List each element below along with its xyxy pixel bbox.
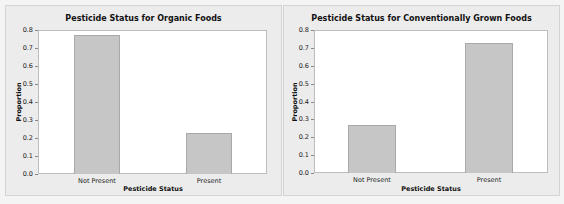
y-tick-mark	[311, 30, 314, 31]
y-tick-mark	[35, 120, 38, 121]
bar-present	[465, 43, 513, 173]
y-tick-label: 0.1	[289, 151, 309, 159]
chart-panel-conventional: Pesticide Status for Conventionally Grow…	[283, 5, 560, 196]
y-tick-label: 0.1	[13, 152, 33, 160]
y-tick-label: 0.6	[13, 62, 33, 70]
y-tick-mark	[35, 174, 38, 175]
y-tick-label: 0.2	[289, 133, 309, 141]
x-tick-label: Not Present	[78, 177, 116, 185]
bar-not-present	[348, 125, 396, 173]
y-tick-mark	[311, 66, 314, 67]
y-tick-mark	[311, 84, 314, 85]
y-tick-label: 0.4	[289, 98, 309, 106]
x-tick-label: Present	[477, 176, 501, 184]
y-tick-mark	[311, 119, 314, 120]
y-tick-label: 0.8	[289, 26, 309, 34]
y-tick-mark	[311, 102, 314, 103]
bar-present	[186, 133, 232, 174]
x-tick-label: Present	[197, 177, 221, 185]
y-tick-mark	[35, 138, 38, 139]
y-tick-mark	[311, 137, 314, 138]
y-tick-mark	[35, 84, 38, 85]
bar-not-present	[74, 35, 120, 174]
y-tick-label: 0.3	[289, 115, 309, 123]
y-tick-mark	[35, 102, 38, 103]
y-tick-label: 0.7	[289, 44, 309, 52]
y-tick-mark	[311, 155, 314, 156]
y-tick-label: 0.8	[13, 26, 33, 34]
y-tick-label: 0.6	[289, 62, 309, 70]
y-tick-label: 0.4	[13, 98, 33, 106]
x-axis-label: Pesticide Status	[123, 185, 183, 193]
chart-panel-organic: Pesticide Status for Organic Foods Propo…	[5, 5, 282, 196]
y-tick-label: 0.0	[13, 170, 33, 178]
y-tick-label: 0.3	[13, 116, 33, 124]
y-tick-mark	[35, 66, 38, 67]
y-tick-mark	[311, 48, 314, 49]
chart-title: Pesticide Status for Conventionally Grow…	[284, 14, 559, 23]
y-tick-label: 0.5	[13, 80, 33, 88]
x-axis-label: Pesticide Status	[401, 185, 461, 193]
x-tick-label: Not Present	[353, 176, 391, 184]
y-tick-mark	[35, 30, 38, 31]
plot-area	[38, 30, 267, 174]
y-tick-label: 0.5	[289, 80, 309, 88]
y-tick-label: 0.2	[13, 134, 33, 142]
y-tick-mark	[311, 173, 314, 174]
y-tick-mark	[35, 156, 38, 157]
y-tick-mark	[35, 48, 38, 49]
y-tick-label: 0.7	[13, 44, 33, 52]
y-tick-label: 0.0	[289, 169, 309, 177]
chart-title: Pesticide Status for Organic Foods	[6, 14, 281, 23]
